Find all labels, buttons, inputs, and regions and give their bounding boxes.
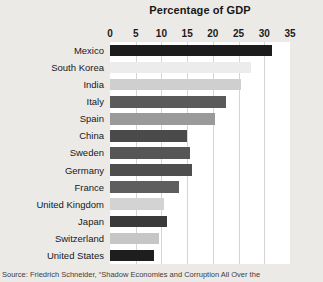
- bar-italy: [110, 96, 226, 108]
- x-tick-label-35: 35: [284, 28, 295, 39]
- category-label-china: China: [0, 127, 104, 144]
- bar-united-kingdom: [110, 198, 164, 210]
- bar-south-korea: [110, 62, 251, 74]
- bar-japan: [110, 216, 167, 228]
- bar-united-states: [110, 250, 154, 262]
- chart-title: Percentage of GDP: [110, 4, 290, 16]
- category-label-italy: Italy: [0, 93, 104, 110]
- bar-spain: [110, 113, 215, 125]
- category-label-france: France: [0, 179, 104, 196]
- category-label-united-kingdom: United Kingdom: [0, 196, 104, 213]
- bar-mexico: [110, 45, 272, 57]
- bar-row: India: [0, 76, 323, 93]
- bar-row: France: [0, 179, 323, 196]
- bar-switzerland: [110, 233, 159, 245]
- category-label-south-korea: South Korea: [0, 59, 104, 76]
- bar-india: [110, 79, 241, 91]
- x-tick-label-20: 20: [207, 28, 218, 39]
- bar-germany: [110, 164, 192, 176]
- bar-row: Japan: [0, 213, 323, 230]
- category-label-spain: Spain: [0, 110, 104, 127]
- bar-row: United Kingdom: [0, 196, 323, 213]
- bar-france: [110, 181, 179, 193]
- category-label-germany: Germany: [0, 162, 104, 179]
- bar-row: Mexico: [0, 42, 323, 59]
- bar-row: South Korea: [0, 59, 323, 76]
- category-label-sweden: Sweden: [0, 144, 104, 161]
- category-label-switzerland: Switzerland: [0, 230, 104, 247]
- bar-rows: MexicoSouth KoreaIndiaItalySpainChinaSwe…: [0, 42, 323, 264]
- x-tick-label-25: 25: [233, 28, 244, 39]
- x-tick-label-15: 15: [182, 28, 193, 39]
- bar-row: United States: [0, 247, 323, 264]
- source-note: Source: Friedrich Schneider, “Shadow Eco…: [2, 270, 323, 279]
- bar-row: China: [0, 127, 323, 144]
- x-axis-tick-labels: 05101520253035: [110, 28, 290, 42]
- bar-row: Germany: [0, 162, 323, 179]
- x-tick-label-0: 0: [107, 28, 113, 39]
- x-tick-label-30: 30: [259, 28, 270, 39]
- bar-china: [110, 130, 187, 142]
- category-label-india: India: [0, 76, 104, 93]
- bar-row: Spain: [0, 110, 323, 127]
- category-label-united-states: United States: [0, 247, 104, 264]
- x-tick-label-5: 5: [133, 28, 139, 39]
- category-label-japan: Japan: [0, 213, 104, 230]
- chart-figure: Percentage of GDP 05101520253035 MexicoS…: [0, 0, 323, 282]
- bar-sweden: [110, 147, 190, 159]
- x-tick-label-10: 10: [156, 28, 167, 39]
- bar-row: Switzerland: [0, 230, 323, 247]
- bar-row: Italy: [0, 93, 323, 110]
- bar-row: Sweden: [0, 144, 323, 161]
- category-label-mexico: Mexico: [0, 42, 104, 59]
